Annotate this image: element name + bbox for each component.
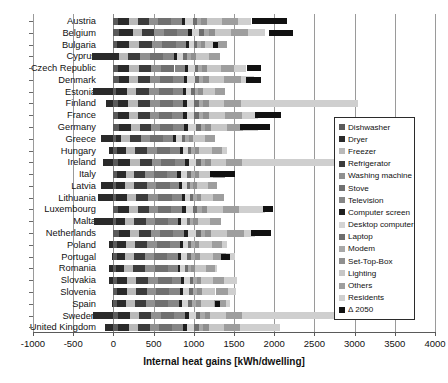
bar-segment [126,171,134,178]
bar-segment [147,288,156,295]
bar-segment [116,265,124,272]
bar-segment [240,324,280,331]
delta-2050-marker [247,65,261,71]
bar-segment [201,194,213,201]
bar-segment [138,76,150,83]
bar-segment [172,112,183,119]
bar-segment [187,324,194,331]
bar-segment [173,100,183,107]
bar-segment [199,147,211,154]
bar-segment [221,65,234,72]
bar-segment [116,194,126,201]
bar-segment [126,241,135,248]
bar-segment [151,65,161,72]
bar-segment [187,100,194,107]
bar-segment [130,230,139,237]
bar-segment [157,241,170,248]
bar-segment [228,288,237,295]
x-tick-1500 [234,332,235,336]
legend-swatch-icon [339,295,345,301]
bar-segment [129,206,138,213]
bar-segment [133,29,142,36]
legend-label: Washing machine [348,171,412,180]
bar-segment [117,241,126,248]
bar-segment [140,124,151,131]
delta-2050-marker [221,254,230,260]
bar-segment [158,194,172,201]
legend-swatch-icon [339,283,345,289]
legend-item: Dryer [339,133,411,145]
bar-segment [171,206,182,213]
bar-segment [205,135,215,142]
bar-segment [175,159,186,166]
bar-segment [154,29,164,36]
bar-segment [168,300,178,307]
bar-segment [140,53,150,60]
bar-segment [222,147,227,154]
bar-segment [159,324,172,331]
legend-swatch-icon [339,197,345,203]
internal-heat-gains-chart: -1000-5000500100015002000250030003500400… [0,0,448,383]
bar-segment [189,159,196,166]
bar-segment [215,88,225,95]
bar-segment [136,288,148,295]
bar-segment [215,265,217,272]
legend-label: Refrigerator [348,159,391,168]
bar-segment [160,76,173,83]
bar-segment [146,300,155,307]
bar-segment [170,182,179,189]
legend-label: Television [348,196,384,205]
legend-item: Television [339,194,411,206]
bar-segment [145,253,154,260]
bar-segment [234,65,246,72]
bar-segment [150,76,160,83]
bar-segment [128,100,137,107]
bar-segment [210,218,220,225]
bar-segment [130,159,139,166]
bar-segment [117,288,127,295]
bar-segment [211,159,226,166]
bar-segment [225,112,241,119]
x-tick-2000 [274,332,275,336]
bar-segment [188,230,196,237]
bar-segment [116,218,126,225]
legend-swatch-icon [339,270,345,276]
bar-segment [170,241,180,248]
legend-label: Modem [348,244,375,253]
bar-segment [211,124,227,131]
bar-segment [118,312,130,319]
bar-segment [150,324,160,331]
legend-item: Laptop [339,231,411,243]
legend-label: Dryer [348,135,368,144]
bar-segment [117,253,126,260]
bar-segment [134,218,146,225]
delta-2050-marker [251,230,271,236]
bar-segment [118,159,130,166]
bar-segment [149,88,159,95]
bar-segment [118,100,128,107]
bar-segment [157,147,170,154]
bar-segment [208,182,217,189]
bar-segment [155,300,168,307]
legend-swatch-icon [339,124,345,130]
bar-segment [209,324,224,331]
bar-segment [172,194,182,201]
bar-segment [150,100,160,107]
bar-segment [138,112,149,119]
legend-swatch-icon [339,234,345,240]
bar-segment [140,159,152,166]
bar-segment [138,206,149,213]
bar-segment [185,18,192,25]
bar-segment-residents-negative [106,100,113,107]
bar-segment [152,159,162,166]
bar-segment-residents-negative [92,53,113,60]
bar-segment [133,265,145,272]
x-tick--1000 [33,332,34,336]
bar-segment [238,18,251,25]
bar-segment [156,182,170,189]
bar-segment [207,18,222,25]
bar-segment [188,124,196,131]
bar-segment [227,230,244,237]
bar-segment [172,324,183,331]
bar-segment-residents-negative [105,324,113,331]
